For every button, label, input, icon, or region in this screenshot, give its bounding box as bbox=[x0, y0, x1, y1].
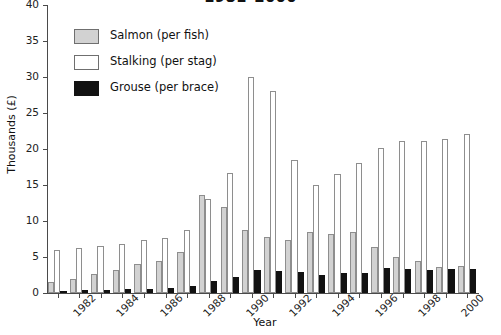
x-tick-mark bbox=[381, 293, 382, 298]
bar-grouse-1988 bbox=[211, 281, 217, 293]
bar-grouse-1991 bbox=[276, 271, 282, 293]
x-tick-mark bbox=[252, 293, 253, 298]
bar-stalk-1989 bbox=[227, 173, 233, 293]
x-tick-mark bbox=[316, 293, 317, 298]
bar-grouse-1999 bbox=[448, 269, 454, 293]
y-tick-label: 0 bbox=[0, 286, 39, 298]
bar-stalk-1982 bbox=[76, 248, 82, 293]
bar-stalk-1988 bbox=[205, 199, 211, 293]
x-tick-mark bbox=[295, 293, 296, 298]
x-tick-mark bbox=[79, 293, 80, 298]
bar-grouse-1990 bbox=[254, 270, 260, 293]
bar-stalk-1983 bbox=[97, 246, 103, 293]
x-tick-mark bbox=[101, 293, 102, 298]
bar-stalk-1990 bbox=[248, 77, 254, 293]
bar-stalk-1991 bbox=[270, 91, 276, 293]
y-tick-label: 5 bbox=[0, 250, 39, 262]
legend-swatch-grouse-icon bbox=[74, 81, 99, 96]
x-tick-mark bbox=[230, 293, 231, 298]
bar-grouse-1984 bbox=[125, 289, 131, 293]
y-tick-label: 40 bbox=[0, 0, 39, 10]
legend-swatch-stalk-icon bbox=[74, 55, 99, 70]
x-tick-mark bbox=[122, 293, 123, 298]
legend-swatch-salmon-icon bbox=[74, 29, 99, 44]
bar-stalk-1987 bbox=[184, 230, 190, 293]
x-tick-mark bbox=[467, 293, 468, 298]
legend-label: Stalking (per stag) bbox=[110, 54, 217, 68]
bar-stalk-1986 bbox=[162, 238, 168, 293]
bar-grouse-1992 bbox=[298, 272, 304, 293]
x-tick-mark bbox=[446, 293, 447, 298]
x-axis-label: Year bbox=[215, 316, 315, 329]
y-tick-label: 10 bbox=[0, 214, 39, 226]
bars-layer bbox=[47, 5, 478, 293]
bar-grouse-1987 bbox=[190, 286, 196, 293]
bar-grouse-1983 bbox=[104, 290, 110, 293]
bar-grouse-1993 bbox=[319, 275, 325, 293]
bar-grouse-1995 bbox=[362, 273, 368, 293]
x-tick-mark bbox=[359, 293, 360, 298]
bar-chart: 1981–2000 0510152025303540 Thousands (£)… bbox=[0, 0, 501, 335]
bar-stalk-1984 bbox=[119, 244, 125, 293]
x-tick-mark bbox=[166, 293, 167, 298]
x-tick-mark bbox=[209, 293, 210, 298]
bar-stalk-1985 bbox=[141, 240, 147, 293]
bar-grouse-1998 bbox=[427, 270, 433, 293]
bar-grouse-1986 bbox=[168, 288, 174, 293]
x-tick-mark bbox=[338, 293, 339, 298]
bar-grouse-1989 bbox=[233, 277, 239, 293]
x-tick-mark bbox=[187, 293, 188, 298]
bar-grouse-1997 bbox=[405, 269, 411, 293]
x-tick-mark bbox=[424, 293, 425, 298]
bar-grouse-1985 bbox=[147, 289, 153, 293]
x-tick-mark bbox=[403, 293, 404, 298]
legend-label: Grouse (per brace) bbox=[110, 80, 219, 94]
y-axis-label: Thousands (£) bbox=[5, 70, 18, 200]
x-tick-mark bbox=[273, 293, 274, 298]
x-tick-mark bbox=[144, 293, 145, 298]
bar-grouse-1996 bbox=[384, 268, 390, 293]
bar-grouse-2000 bbox=[470, 269, 476, 293]
bar-stalk-1981 bbox=[54, 250, 60, 293]
bar-grouse-1981 bbox=[60, 291, 66, 293]
bar-grouse-1994 bbox=[341, 273, 347, 293]
x-tick-mark bbox=[58, 293, 59, 298]
bar-grouse-1982 bbox=[82, 290, 88, 293]
legend-label: Salmon (per fish) bbox=[110, 28, 209, 42]
y-tick-label: 35 bbox=[0, 34, 39, 46]
